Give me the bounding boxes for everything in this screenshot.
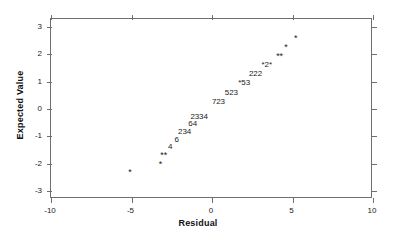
data-point-5: 234 — [178, 128, 191, 136]
x-tick-label-3: 5 — [272, 206, 312, 216]
data-point-2: ** — [160, 151, 167, 158]
data-point-10: *53 — [238, 79, 250, 87]
y-tick-0 — [47, 191, 52, 192]
x-tick-4 — [373, 198, 374, 203]
x-tick-top-2 — [212, 15, 213, 20]
y-tick-3 — [47, 109, 52, 110]
data-point-13: ** — [276, 53, 283, 60]
data-point-3: 4 — [168, 143, 172, 151]
x-tick-1 — [132, 198, 133, 203]
data-point-0: * — [128, 168, 131, 175]
y-tick-1 — [47, 164, 52, 165]
data-point-6: 64 — [188, 120, 197, 128]
y-tick-label-6: 3 — [20, 22, 42, 31]
x-tick-2 — [212, 198, 213, 203]
x-tick-3 — [293, 198, 294, 203]
data-point-9: 523 — [225, 89, 238, 97]
y-tick-6 — [47, 27, 52, 28]
y-tick-right-4 — [372, 82, 377, 83]
data-point-15: * — [294, 34, 297, 41]
data-point-1: * — [159, 160, 162, 167]
y-tick-label-1: -2 — [20, 159, 42, 168]
y-tick-right-2 — [372, 136, 377, 137]
x-axis-title: Residual — [0, 218, 396, 228]
x-tick-label-1: -5 — [111, 206, 151, 216]
y-tick-right-3 — [372, 109, 377, 110]
data-point-4: 6 — [174, 136, 178, 144]
y-tick-label-2: -1 — [20, 131, 42, 140]
y-tick-5 — [47, 54, 52, 55]
data-point-14: * — [284, 43, 287, 50]
x-tick-label-4: 10 — [352, 206, 392, 216]
data-point-7: 2334 — [190, 113, 207, 121]
data-point-11: 222 — [249, 70, 262, 78]
x-tick-label-2: 0 — [191, 206, 231, 216]
x-tick-top-0 — [51, 15, 52, 20]
x-tick-top-3 — [293, 15, 294, 20]
y-tick-right-0 — [372, 191, 377, 192]
y-tick-label-4: 1 — [20, 77, 42, 86]
x-tick-top-1 — [132, 15, 133, 20]
data-point-8: 723 — [212, 98, 225, 106]
y-tick-right-5 — [372, 54, 377, 55]
y-tick-right-6 — [372, 27, 377, 28]
y-tick-right-1 — [372, 164, 377, 165]
y-tick-2 — [47, 136, 52, 137]
data-point-12: *2* — [262, 61, 272, 69]
y-tick-label-0: -3 — [20, 186, 42, 195]
chart-screenshot: Expected Value ****46234642334723523*532… — [0, 0, 396, 236]
x-tick-0 — [51, 198, 52, 203]
plot-area: ****46234642334723523*53222*2***** — [50, 18, 372, 198]
y-tick-4 — [47, 82, 52, 83]
x-tick-label-0: -10 — [30, 206, 70, 216]
x-tick-top-4 — [373, 15, 374, 20]
y-tick-label-5: 2 — [20, 49, 42, 58]
y-tick-label-3: 0 — [20, 104, 42, 113]
